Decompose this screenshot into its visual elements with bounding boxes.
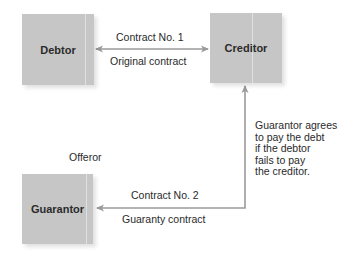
debtor-box: Debtor bbox=[22, 14, 94, 85]
offeror-label: Offeror bbox=[69, 151, 101, 163]
contract1-subtitle: Original contract bbox=[110, 55, 186, 67]
guarantee-note-line: the creditor. bbox=[255, 166, 337, 178]
contract1-title: Contract No. 1 bbox=[116, 31, 184, 43]
debtor-label: Debtor bbox=[40, 44, 75, 56]
guarantee-note: Guarantor agrees to pay the debt if the … bbox=[255, 120, 337, 178]
guarantee-note-line: Guarantor agrees bbox=[255, 120, 337, 132]
contract2-title: Contract No. 2 bbox=[131, 189, 199, 201]
contract2-subtitle: Guaranty contract bbox=[122, 213, 205, 225]
guarantor-label: Guarantor bbox=[31, 203, 84, 215]
creditor-label: Creditor bbox=[225, 42, 268, 54]
creditor-box: Creditor bbox=[210, 13, 282, 83]
guarantor-box: Guarantor bbox=[22, 174, 93, 244]
